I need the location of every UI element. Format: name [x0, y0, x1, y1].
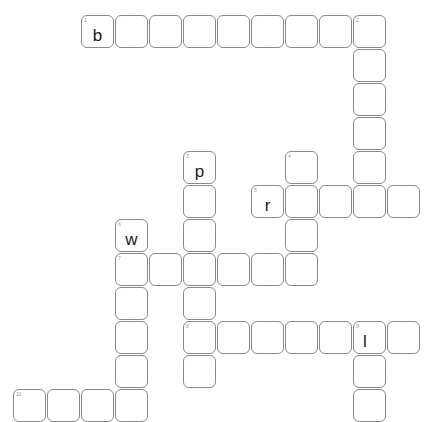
crossword-cell[interactable]	[387, 185, 420, 218]
cell-letter: r	[252, 196, 283, 215]
crossword-cell[interactable]: 2	[353, 15, 386, 48]
crossword-cell[interactable]: 10	[13, 389, 46, 422]
crossword-cell[interactable]	[115, 321, 148, 354]
cell-number: 9	[356, 323, 358, 330]
crossword-cell[interactable]: 4	[285, 151, 318, 184]
crossword-cell[interactable]: 3p	[183, 151, 216, 184]
cell-number: 5	[254, 187, 256, 194]
crossword-cell[interactable]	[149, 15, 182, 48]
crossword-cell[interactable]	[353, 151, 386, 184]
cell-number: 2	[356, 17, 358, 24]
crossword-cell[interactable]	[217, 15, 250, 48]
crossword-cell[interactable]: 6w	[115, 219, 148, 252]
crossword-cell[interactable]	[115, 389, 148, 422]
crossword-cell[interactable]	[353, 355, 386, 388]
crossword-cell[interactable]: 5r	[251, 185, 284, 218]
cell-letter: p	[184, 162, 215, 181]
crossword-cell[interactable]: 1b	[81, 15, 114, 48]
crossword-cell[interactable]	[353, 117, 386, 150]
cell-number: 3	[186, 153, 188, 160]
cell-letter: b	[82, 26, 113, 45]
crossword-cell[interactable]	[183, 15, 216, 48]
crossword-cell[interactable]	[183, 185, 216, 218]
cell-number: 8	[186, 323, 188, 330]
crossword-cell[interactable]	[115, 15, 148, 48]
crossword-cell[interactable]	[285, 253, 318, 286]
crossword-cell[interactable]	[319, 15, 352, 48]
crossword-cell[interactable]	[183, 287, 216, 320]
crossword-cell[interactable]	[353, 185, 386, 218]
crossword-cell[interactable]: 7	[115, 253, 148, 286]
crossword-cell[interactable]	[183, 219, 216, 252]
cell-number: 10	[16, 391, 21, 398]
crossword-cell[interactable]	[183, 253, 216, 286]
crossword-cell[interactable]	[217, 253, 250, 286]
crossword-cell[interactable]	[217, 321, 250, 354]
cell-letter: l	[354, 332, 385, 351]
cell-number: 1	[84, 17, 86, 24]
crossword-cell[interactable]	[115, 355, 148, 388]
crossword-cell[interactable]	[387, 321, 420, 354]
crossword-cell[interactable]	[319, 321, 352, 354]
crossword-cell[interactable]	[47, 389, 80, 422]
cell-number: 7	[118, 255, 120, 262]
cell-letter: w	[116, 230, 147, 249]
crossword-cell[interactable]	[115, 287, 148, 320]
crossword-cell[interactable]	[251, 321, 284, 354]
crossword-cell[interactable]	[183, 355, 216, 388]
crossword-cell[interactable]	[353, 83, 386, 116]
crossword-cell[interactable]	[285, 185, 318, 218]
crossword-cell[interactable]	[251, 15, 284, 48]
cell-number: 4	[288, 153, 290, 160]
crossword-cell[interactable]	[81, 389, 114, 422]
crossword-cell[interactable]: 9l	[353, 321, 386, 354]
crossword-cell[interactable]	[149, 253, 182, 286]
cell-number: 6	[118, 221, 120, 228]
crossword-cell[interactable]	[251, 253, 284, 286]
crossword-cell[interactable]	[285, 321, 318, 354]
crossword-cell[interactable]	[285, 15, 318, 48]
crossword-cell[interactable]	[285, 219, 318, 252]
crossword-cell[interactable]	[353, 389, 386, 422]
crossword-cell[interactable]	[319, 185, 352, 218]
crossword-cell[interactable]	[353, 49, 386, 82]
crossword-cell[interactable]: 8	[183, 321, 216, 354]
